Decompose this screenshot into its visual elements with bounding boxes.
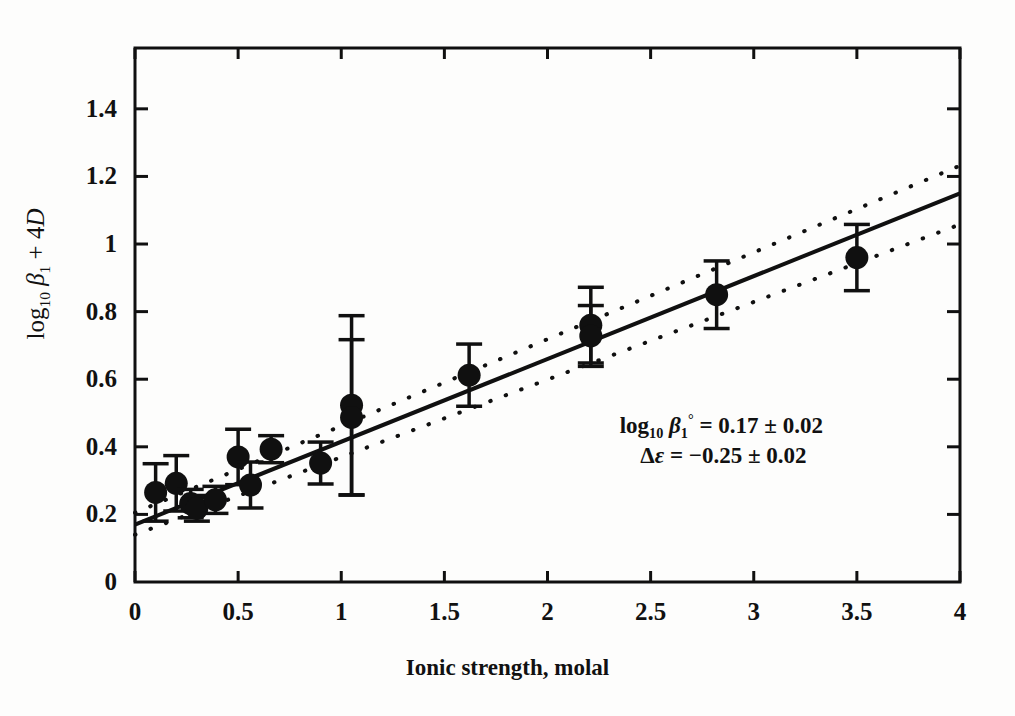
data-point-marker (845, 246, 868, 269)
x-tick-label: 1 (335, 598, 348, 626)
data-point-marker (260, 438, 283, 461)
data-point-marker (239, 474, 262, 497)
annotation-log-beta: log10 β1° = 0.17 ± 0.02 (620, 411, 823, 442)
x-tick-label: 3.5 (841, 598, 872, 626)
x-axis-title: Ionic strength, molal (0, 655, 1015, 681)
y-tick-label: 1.2 (7, 162, 117, 190)
data-point-marker (705, 283, 728, 306)
data-point-marker (227, 445, 250, 468)
y-tick-label: 0 (7, 568, 117, 596)
y-tick-label: 0.8 (7, 298, 117, 326)
data-point-marker (579, 324, 602, 347)
y-tick-label: 1 (7, 230, 117, 258)
annotation-depsilon-value: −0.25 (689, 443, 742, 468)
figure-container: log10 β1 + 4D Ionic strength, molal log1… (0, 0, 1015, 716)
y-tick-label: 0.6 (7, 365, 117, 393)
annotation-intercept-value: 0.17 (718, 412, 758, 437)
x-tick-label: 0.5 (223, 598, 254, 626)
annotation-intercept-error: 0.02 (783, 412, 823, 437)
regression-line (135, 193, 960, 524)
data-point-marker (340, 406, 363, 429)
page-background: log10 β1 + 4D Ionic strength, molal log1… (0, 0, 1015, 716)
x-tick-label: 3 (748, 598, 761, 626)
data-point-marker (204, 488, 227, 511)
x-tick-label: 0 (129, 598, 142, 626)
data-point-marker (144, 481, 167, 504)
data-point-marker (165, 472, 188, 495)
y-axis-title: log10 β1 + 4D (22, 174, 54, 374)
data-point-marker (309, 452, 332, 475)
plot-frame (135, 48, 960, 582)
annotation-delta-epsilon: Δε = −0.25 ± 0.02 (640, 443, 806, 469)
data-point-marker (458, 364, 481, 387)
y-tick-label: 0.4 (7, 433, 117, 461)
y-tick-label: 0.2 (7, 500, 117, 528)
x-tick-label: 2 (541, 598, 554, 626)
x-tick-label: 1.5 (429, 598, 460, 626)
x-tick-label: 4 (954, 598, 967, 626)
y-tick-label: 1.4 (7, 95, 117, 123)
x-tick-label: 2.5 (635, 598, 666, 626)
annotation-depsilon-error: 0.02 (766, 443, 806, 468)
